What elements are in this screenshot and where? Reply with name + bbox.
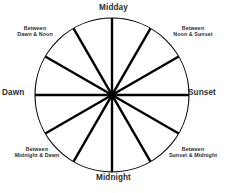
- label-dawn-text: Dawn: [2, 88, 42, 97]
- label-between-dawn-and-noon: Between Dawn & Noon: [6, 26, 64, 38]
- time-cycle-wheel-diagram: Midday Sunset Midnight Dawn Between Dawn…: [0, 0, 227, 193]
- label-between-sunset-and-midnight: Between Sunset & Midnight: [161, 147, 225, 159]
- label-sunset-text: Sunset: [188, 88, 227, 97]
- label-between-midnight-and-dawn-line2: Midnight & Dawn: [6, 153, 68, 159]
- label-dawn: Dawn: [2, 88, 42, 97]
- label-midnight: Midnight: [0, 173, 227, 182]
- label-between-dawn-and-noon-line2: Dawn & Noon: [6, 32, 64, 38]
- wheel-center-hub: [107, 90, 116, 99]
- label-midday-text: Midday: [0, 3, 227, 12]
- label-between-noon-and-sunset-line2: Noon & Sunset: [163, 32, 223, 38]
- label-sunset: Sunset: [188, 88, 227, 97]
- label-midnight-text: Midnight: [0, 173, 227, 182]
- label-between-midnight-and-dawn: Between Midnight & Dawn: [6, 147, 68, 159]
- label-between-noon-and-sunset: Between Noon & Sunset: [163, 26, 223, 38]
- label-between-sunset-and-midnight-line2: Sunset & Midnight: [161, 153, 225, 159]
- label-midday: Midday: [0, 3, 227, 12]
